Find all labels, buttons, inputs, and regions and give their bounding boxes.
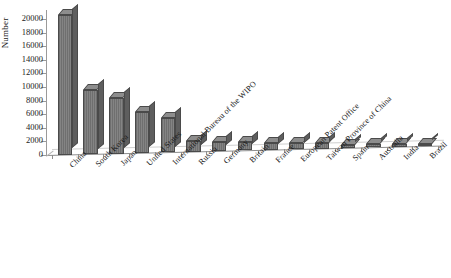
y-tick-label: 6000 [26,108,43,118]
y-tick-label: 18000 [22,27,43,37]
x-axis-label: France [274,158,280,164]
bar [418,144,432,146]
y-tick: 0 [46,155,47,156]
x-axis-label: India [402,155,408,161]
y-tick: 20000 [46,19,47,20]
y-tick: 18000 [46,33,47,34]
bar-top-face [418,138,437,144]
bar-side-face [278,132,284,144]
bar-side-face [149,101,155,147]
bar-side-face [252,131,258,144]
y-tick-label: 2000 [26,135,43,145]
y-tick-label: 14000 [22,54,43,64]
y-tick-label: 4000 [26,122,43,132]
y-tick: 16000 [46,46,47,47]
y-tick-label: 12000 [22,67,43,77]
x-axis-label: Taiwan Province of China [325,157,331,163]
y-tick-label: 0 [39,149,43,159]
bar [58,15,72,154]
y-tick: 8000 [46,101,47,102]
bar-chart: Number 020004000600080001000012000140001… [0,0,451,278]
x-axis-label: Australia [376,156,382,162]
x-axis-label: China [68,163,74,169]
plot-area: 0200040006000800010000120001400016000180… [46,8,444,158]
x-axis-label: Japan [119,162,125,168]
x-axis-label: Russia [196,160,202,166]
bar-side-face [72,4,78,148]
x-axis-label: Brazil [428,154,434,160]
x-axis-label: Spain [351,156,357,162]
bar [83,90,97,155]
x-axis-label: United States [145,161,151,167]
y-tick: 6000 [46,114,47,115]
x-axis-label: South Korea [93,162,99,168]
bar-side-face [98,78,104,148]
bar-side-face [226,131,232,145]
x-axis-labels: ChinaSouth KoreaJapanUnited StatesIntern… [46,158,451,278]
bar-side-face [304,132,310,143]
y-tick: 4000 [46,128,47,129]
x-axis-label: International Bureau of the WIPO [171,160,177,166]
x-axis-label: Germany [222,159,228,165]
x-axis-label: European Patent Office [299,157,305,163]
y-tick: 14000 [46,60,47,61]
y-tick-label: 16000 [22,40,43,50]
y-axis-title: Number [0,0,16,68]
x-axis-label: Britain [248,159,254,165]
y-tick-label: 20000 [22,13,43,23]
y-tick: 2000 [46,141,47,142]
bar [135,112,149,153]
y-tick: 12000 [46,73,47,74]
y-tick-label: 10000 [22,81,43,91]
y-tick-label: 8000 [26,95,43,105]
y-tick: 10000 [46,87,47,88]
